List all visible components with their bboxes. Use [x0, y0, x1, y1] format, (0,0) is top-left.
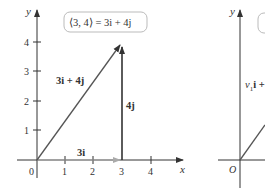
origin-label: 0	[29, 166, 34, 177]
right-y-axis-label: y	[229, 5, 235, 17]
y-tick-label-3: 3	[24, 66, 29, 77]
right-vector-arrow	[240, 125, 265, 160]
x-tick-label-1: 1	[62, 166, 67, 177]
vector-label: 3i + 4j	[56, 75, 84, 86]
horizontal-component-label: 3i	[77, 147, 85, 158]
right-panel: y O v1i +	[218, 5, 265, 188]
x-axis-label: x	[179, 163, 185, 175]
right-vector-label: v1i +	[245, 79, 265, 93]
vector-3i-4j-arrow	[37, 45, 120, 160]
y-tick-label-2: 2	[24, 96, 29, 107]
equation-text: ⟨3, 4⟩ = 3i + 4j	[69, 17, 132, 28]
x-tick-label-2: 2	[90, 166, 95, 177]
left-panel: y x 0 1 2 3 4 1 2 3 4 ⟨3, 4⟩ = 3i + 4j 3…	[17, 5, 185, 178]
right-equation-box	[258, 13, 265, 33]
right-vector-label-suffix: i +	[253, 79, 265, 90]
y-tick-label-4: 4	[24, 37, 29, 48]
y-axis-label: y	[25, 5, 31, 17]
x-tick-label-3: 3	[119, 166, 124, 177]
vector-diagram: y x 0 1 2 3 4 1 2 3 4 ⟨3, 4⟩ = 3i + 4j 3…	[0, 0, 265, 194]
y-tick-label-1: 1	[24, 125, 29, 136]
vertical-component-label: 4j	[126, 100, 135, 111]
x-tick-label-4: 4	[148, 166, 153, 177]
right-origin-label: O	[229, 164, 236, 175]
